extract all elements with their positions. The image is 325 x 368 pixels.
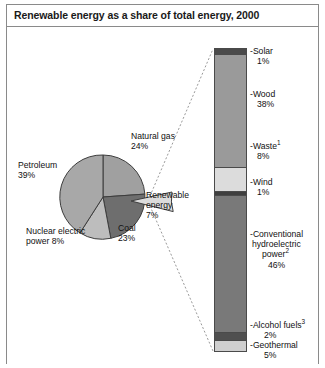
pie-label-petroleum: Petroleum 39%: [18, 160, 57, 180]
pie-slices: [60, 155, 173, 239]
bar-label-wind-text: Wind: [253, 177, 273, 187]
bar-label-alcohol-text: Alcohol fuels: [253, 320, 302, 330]
pie-label-coal-text: Coal: [118, 223, 136, 233]
bar-label-geothermal: -Geothermal 5%: [250, 340, 298, 360]
bar-segment-waste: [215, 167, 246, 191]
figure-border-top: [6, 4, 319, 5]
bar-segment-alcohol: [215, 332, 246, 340]
bar-label-alcohol: -Alcohol fuels3 2%: [250, 320, 305, 340]
bar-label-geothermal-value: 5%: [250, 350, 298, 360]
bar-label-wind-value: 1%: [250, 187, 272, 197]
figure-border-left: [6, 4, 7, 364]
pie-slice-renewable: [131, 192, 173, 212]
bar-label-hydro-text3: power: [262, 249, 285, 259]
pie-label-renewable-text: Renewable: [146, 190, 189, 200]
bar-label-alcohol-footnote: 3: [302, 318, 306, 325]
bar-label-hydro-text2: hydroelectric: [250, 239, 303, 249]
bar-label-wood-value: 38%: [250, 99, 275, 109]
bar-label-solar: -Solar 1%: [250, 46, 273, 66]
pie-chart: Petroleum 39% Natural gas 24% Coal 23% N…: [0, 0, 325, 368]
pie-slice-nuclear: [80, 197, 111, 239]
bar-label-hydro-value: 46%: [250, 260, 303, 270]
pie-label-natural-gas: Natural gas 24%: [131, 131, 175, 151]
pie-label-nuclear: Nuclear electric power 8%: [26, 226, 85, 246]
pie-label-petroleum-text: Petroleum: [18, 160, 57, 170]
bar-label-solar-text: Solar: [253, 46, 273, 56]
bar-segment-geothermal: [215, 340, 246, 352]
pie-label-nuclear-value: power 8%: [26, 236, 64, 246]
pie-slice-petroleum: [60, 155, 103, 233]
pie-label-renewable-text2: energy: [146, 200, 172, 210]
title-divider: [6, 26, 319, 27]
pie-label-natural-gas-text: Natural gas: [131, 131, 175, 141]
bar-label-hydro-text: Conventional: [253, 229, 303, 239]
bar-label-alcohol-value: 2%: [250, 330, 305, 340]
pie-label-natural-gas-value: 24%: [131, 141, 148, 151]
pie-label-nuclear-text: Nuclear electric: [26, 226, 85, 236]
pie-label-renewable-value: 7%: [146, 210, 158, 220]
bar-label-wood: -Wood 38%: [250, 89, 275, 109]
bar-label-waste-value: 8%: [250, 151, 280, 161]
bar-label-geothermal-text: Geothermal: [253, 340, 298, 350]
bar-label-wind: -Wind 1%: [250, 177, 272, 197]
bar-label-wood-text: Wood: [253, 89, 275, 99]
pie-slice-coal: [103, 194, 145, 238]
bar-segment-wood: [215, 54, 246, 167]
pie-label-petroleum-value: 39%: [18, 170, 35, 180]
bar-label-hydro-footnote: 2: [285, 248, 289, 255]
pie-label-renewable: Renewable energy 7%: [146, 190, 189, 221]
pie-label-coal: Coal 23%: [118, 223, 136, 243]
leader-lines: [0, 0, 325, 368]
chart-title: Renewable energy as a share of total ene…: [14, 9, 259, 21]
bar-label-waste: -Waste1 8%: [250, 141, 280, 161]
bar-segment-hydro: [215, 195, 246, 332]
pie-label-coal-value: 23%: [118, 233, 135, 243]
pie-slice-natural-gas: [103, 155, 145, 197]
bar-label-solar-value: 1%: [250, 56, 273, 66]
bar-label-hydro: -Conventional hydroelectric power2 46%: [250, 229, 303, 270]
bar-label-waste-text: Waste: [253, 141, 277, 151]
stacked-bar-chart: [214, 48, 247, 352]
chart-figure: Renewable energy as a share of total ene…: [0, 0, 325, 368]
bar-label-waste-footnote: 1: [277, 139, 281, 146]
figure-border-right: [318, 4, 319, 364]
